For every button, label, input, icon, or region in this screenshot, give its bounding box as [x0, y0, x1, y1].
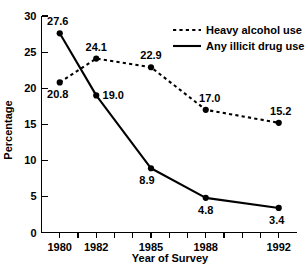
data-point-marker: [203, 107, 209, 113]
y-tick-label: 25: [24, 46, 36, 58]
data-point-marker: [57, 30, 63, 36]
data-point-marker: [93, 55, 99, 61]
y-axis-title: Percentage: [2, 100, 14, 159]
data-point-marker: [57, 79, 63, 85]
data-point-marker: [148, 64, 154, 70]
x-tick-label: 1992: [267, 241, 291, 253]
data-point-marker: [276, 205, 282, 211]
data-label-any-illicit-drug-use-1985: 8.9: [139, 174, 154, 186]
data-label-heavy-alcohol-use-1985: 22.9: [140, 49, 161, 61]
data-point-marker: [93, 92, 99, 98]
data-label-heavy-alcohol-use-1980: 20.8: [47, 88, 68, 100]
y-tick-label: 5: [30, 190, 36, 202]
data-label-any-illicit-drug-use-1980: 27.6: [47, 15, 68, 27]
data-label-any-illicit-drug-use-1982: 19.0: [103, 89, 124, 101]
data-point-marker: [276, 120, 282, 126]
legend-label-heavy-alcohol-use: Heavy alcohol use: [206, 24, 302, 36]
x-tick-label: 1985: [139, 241, 163, 253]
data-label-any-illicit-drug-use-1988: 4.8: [198, 204, 213, 216]
x-axis-title: Year of Survey: [132, 252, 209, 264]
chart-container: 051015202530 19801982198519881992 20.824…: [0, 0, 308, 271]
data-label-heavy-alcohol-use-1982: 24.1: [86, 41, 107, 53]
data-label-heavy-alcohol-use-1988: 17.0: [199, 92, 220, 104]
data-point-marker: [148, 165, 154, 171]
x-tick-label: 1982: [84, 241, 108, 253]
legend-label-any-illicit-drug-use: Any illicit drug use: [206, 40, 304, 52]
x-tick-label: 1988: [194, 241, 218, 253]
y-tick-label: 30: [24, 10, 36, 22]
data-label-heavy-alcohol-use-1992: 15.2: [270, 105, 291, 117]
y-tick-label: 10: [24, 154, 36, 166]
y-tick-label: 15: [24, 118, 36, 130]
y-tick-label: 20: [24, 82, 36, 94]
y-tick-label: 0: [30, 227, 36, 239]
x-tick-label: 1980: [48, 241, 72, 253]
data-label-any-illicit-drug-use-1992: 3.4: [269, 214, 285, 226]
line-chart: 051015202530 19801982198519881992 20.824…: [0, 0, 308, 271]
data-point-marker: [203, 195, 209, 201]
